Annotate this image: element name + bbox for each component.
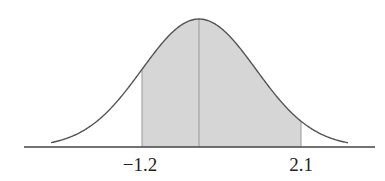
normal-curve-diagram [0, 0, 385, 181]
right-bound-label: 2.1 [289, 155, 313, 174]
left-bound-label: −1.2 [123, 155, 157, 174]
